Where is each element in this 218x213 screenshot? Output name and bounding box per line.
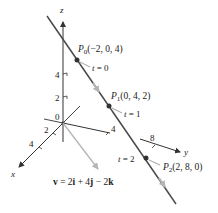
y-tick-label-8: 8: [150, 133, 155, 143]
t2-label: t = 2: [118, 154, 135, 164]
x-axis-label: x: [10, 169, 15, 179]
z-tick-label-4: 4: [55, 70, 60, 80]
x-tick-label-4: 4: [29, 139, 34, 149]
x-tick-label-2: 2: [44, 125, 49, 135]
y-tick-label-4: 4: [111, 124, 116, 134]
point-p1-label: P1(0, 4, 2): [110, 91, 150, 103]
x-tick-2: [53, 133, 56, 135]
point-p2-label: P2(2, 8, 0): [162, 162, 202, 174]
direction-arrow-2: [159, 178, 165, 187]
line-diagram: z 4 2 x 2 4 y 4 8 0 P0(−2, 0, 4) t = 0 P…: [0, 0, 218, 213]
x-tick-4: [39, 147, 42, 149]
point-p1: [107, 104, 112, 109]
t0-label: t = 0: [92, 63, 109, 73]
y-axis-back: [44, 119, 63, 123]
point-p2: [144, 156, 149, 161]
origin-label: 0: [55, 112, 60, 122]
x-axis-back: [63, 106, 80, 123]
y-tick-8: [152, 145, 155, 148]
point-p0-label: P0(−2, 0, 4): [77, 44, 123, 56]
direction-arrow-1: [93, 83, 99, 92]
p2-leader: [149, 160, 160, 165]
z-tick-4: [63, 73, 67, 76]
z-tick-label-2: 2: [55, 93, 60, 103]
t1-label: t = 1: [124, 109, 141, 119]
vector-equation: v = 2i + 4j − 2k: [53, 177, 114, 187]
y-axis: [140, 139, 180, 152]
vector-v-arrow: [63, 123, 98, 169]
z-axis-label: z: [59, 5, 64, 15]
y-axis-label: y: [183, 147, 188, 157]
x-axis: [19, 123, 63, 167]
z-tick-2: [63, 96, 67, 99]
point-p0: [75, 58, 80, 63]
